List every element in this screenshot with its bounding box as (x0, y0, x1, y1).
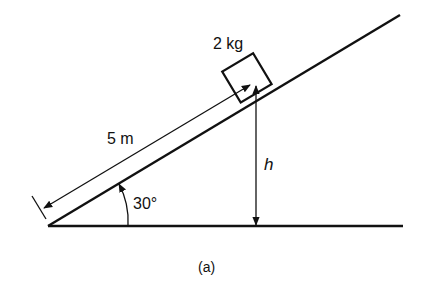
height-label: h (264, 155, 273, 174)
length-label: 5 m (107, 130, 134, 147)
figure-caption: (a) (198, 259, 215, 275)
mass-label: 2 kg (213, 35, 243, 52)
length-dimension-arrow (44, 85, 250, 208)
angle-label: 30° (133, 195, 157, 212)
angle-arc (119, 184, 128, 226)
incline-diagram: 2 kg 5 m 30° h (a) (0, 0, 425, 292)
